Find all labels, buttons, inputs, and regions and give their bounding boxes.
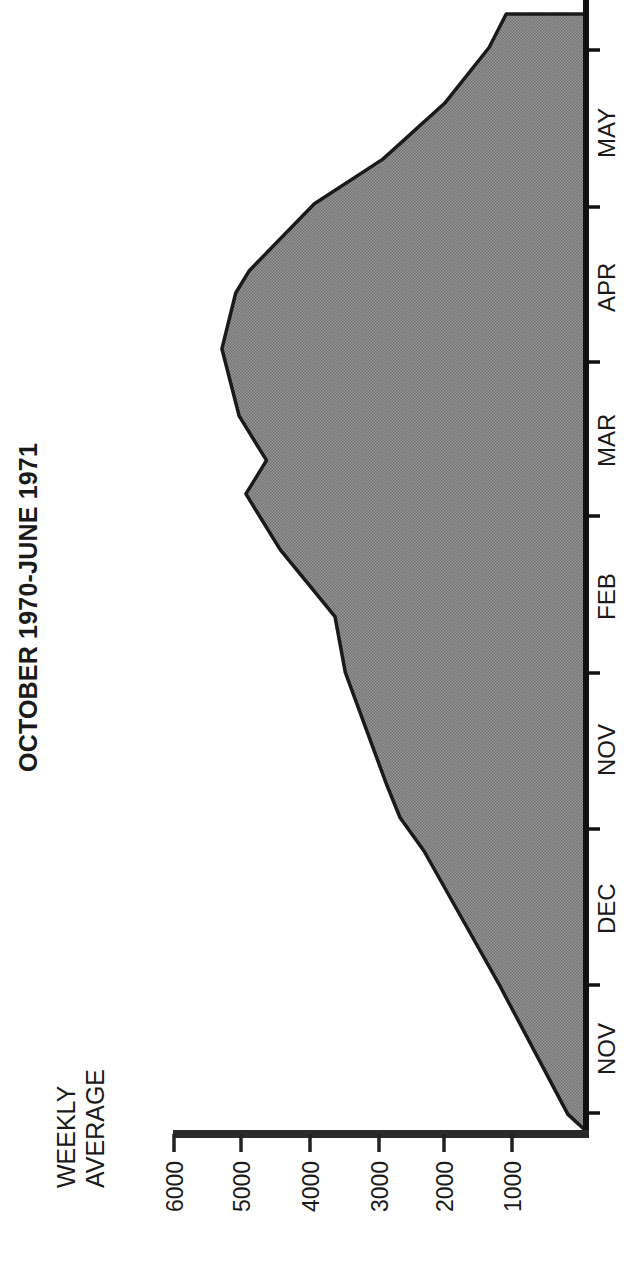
month-label-feb: FEB <box>593 573 621 620</box>
month-label-mar: MAR <box>593 414 621 467</box>
y-tick-4000: 4000 <box>298 1161 325 1212</box>
area-fill <box>222 14 585 1130</box>
chart-title: OCTOBER 1970-JUNE 1971 <box>14 443 43 772</box>
month-label-nov-1: NOV <box>593 1023 621 1075</box>
y-axis-label-line-2: AVERAGE <box>81 1069 110 1188</box>
y-tick-1000: 1000 <box>500 1161 527 1212</box>
month-label-apr: APR <box>593 263 621 312</box>
y-tick-6000: 6000 <box>162 1161 189 1212</box>
y-tick-5000: 5000 <box>229 1161 256 1212</box>
month-label-dec: DEC <box>593 883 621 934</box>
month-label-may: MAY <box>593 108 621 158</box>
y-tick-2000: 2000 <box>432 1161 459 1212</box>
y-axis-label-line-1: WEEKLY <box>52 1069 81 1188</box>
month-label-nov-2: NOV <box>593 724 621 776</box>
y-axis-label: WEEKLY AVERAGE <box>52 1069 110 1188</box>
y-tick-3000: 3000 <box>367 1161 394 1212</box>
